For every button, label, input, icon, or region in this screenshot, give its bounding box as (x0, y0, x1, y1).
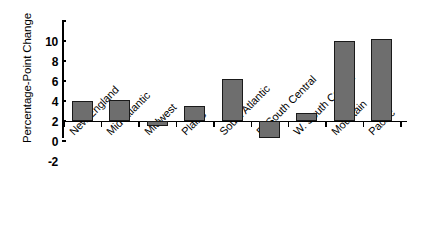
x-axis-tick-mark (213, 122, 215, 127)
y-axis-tick-mark (62, 140, 66, 142)
y-axis-tick-labels: 1086420-2 (30, 21, 58, 138)
bar-mountain (334, 41, 355, 121)
y-axis-tick-mark (62, 40, 66, 42)
x-axis-tick-mark (251, 122, 253, 127)
x-axis-tick-mark (64, 122, 66, 127)
y-axis-tick-mark (62, 60, 66, 62)
y-axis-tick-label: 0 (30, 136, 58, 148)
bar-w-south-central (296, 113, 317, 121)
bar-pacific (371, 39, 392, 121)
y-axis-tick-label: 10 (30, 36, 58, 48)
x-axis-tick-mark (176, 122, 178, 127)
x-axis-tick-mark (288, 122, 290, 127)
x-axis-tick-mark (138, 122, 140, 127)
bar-midwest (147, 121, 168, 126)
bar-chart-figure: Percentage-Point Change 1086420-2 New En… (0, 0, 437, 229)
y-axis-tick-label: 8 (30, 56, 58, 68)
bar-new-england (72, 101, 93, 121)
y-axis-tick-label: 6 (30, 76, 58, 88)
y-axis-tick-label: 4 (30, 96, 58, 108)
y-axis-tick-label: 2 (30, 116, 58, 128)
bar-south-atlantic (222, 79, 243, 122)
bar-e-south-central (259, 121, 280, 138)
y-axis-tick-label: -2 (30, 156, 58, 168)
bar-mid-atlantic (109, 100, 130, 121)
y-axis-tick-mark (62, 100, 66, 102)
y-axis-tick-mark (62, 80, 66, 82)
x-axis-tick-mark (325, 122, 327, 127)
x-axis-tick-mark (101, 122, 103, 127)
x-axis-tick-mark (400, 122, 402, 127)
y-axis-tick-mark (62, 20, 66, 22)
bar-plains (184, 106, 205, 122)
x-axis-tick-mark (363, 122, 365, 127)
